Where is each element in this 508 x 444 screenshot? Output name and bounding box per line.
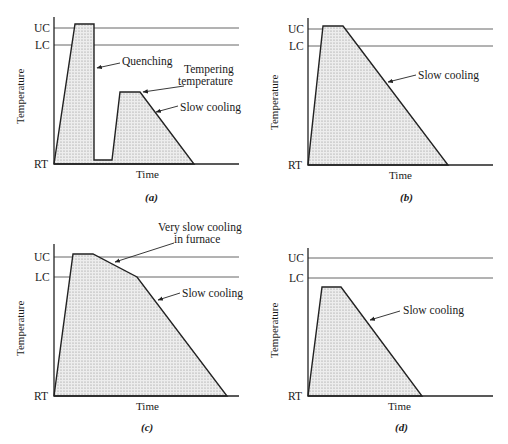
annotation-slow-cooling: Slow cooling bbox=[182, 287, 243, 300]
lc-label: LC bbox=[35, 39, 50, 51]
annotation-temperature: temperature bbox=[178, 75, 233, 88]
panel-d: UC LC RT Temperature Time Slow cooling (… bbox=[268, 248, 493, 434]
x-axis-label: Time bbox=[136, 400, 159, 412]
y-axis-label: Temperature bbox=[14, 68, 26, 124]
x-axis-label: Time bbox=[136, 168, 159, 180]
slow-cooling-arrow-icon bbox=[388, 75, 416, 82]
rt-label: RT bbox=[34, 158, 48, 170]
x-axis-label: Time bbox=[388, 400, 411, 412]
slow-cooling-arrow-icon bbox=[158, 293, 180, 300]
heat-profile-b bbox=[308, 26, 448, 165]
uc-label: UC bbox=[288, 252, 304, 264]
panel-caption: (d) bbox=[395, 421, 408, 434]
lc-label: LC bbox=[35, 271, 50, 283]
annotation-quenching: Quenching bbox=[122, 55, 173, 68]
y-axis-label: Temperature bbox=[14, 300, 26, 356]
annotation-slow-cooling: Slow cooling bbox=[403, 304, 464, 317]
panel-a: UC LC RT Temperature Time Quenching Temp… bbox=[14, 17, 241, 204]
x-axis-label: Time bbox=[389, 169, 412, 181]
y-axis-label: Temperature bbox=[268, 74, 280, 130]
y-axis-label: Temperature bbox=[268, 302, 280, 358]
panel-caption: (a) bbox=[145, 191, 158, 204]
uc-label: UC bbox=[288, 23, 304, 35]
slow-cooling-arrow-icon bbox=[370, 311, 400, 320]
heat-profile-c bbox=[54, 254, 227, 396]
lc-label: LC bbox=[289, 272, 304, 284]
furnace-cooling-arrow-icon bbox=[115, 243, 174, 262]
panel-caption: (c) bbox=[141, 421, 153, 434]
panel-b: UC LC RT Temperature Time Slow cooling (… bbox=[268, 18, 493, 204]
rt-label: RT bbox=[288, 159, 302, 171]
rt-label: RT bbox=[288, 390, 302, 402]
uc-label: UC bbox=[34, 251, 50, 263]
uc-label: UC bbox=[34, 22, 50, 34]
panel-c: UC LC RT Temperature Time Very slow cool… bbox=[14, 221, 243, 434]
annotation-slow-cooling: Slow cooling bbox=[418, 69, 479, 82]
lc-label: LC bbox=[289, 40, 304, 52]
rt-label: RT bbox=[34, 390, 48, 402]
panel-caption: (b) bbox=[400, 191, 413, 204]
slow-cooling-arrow-icon bbox=[156, 106, 178, 112]
annotation-in-furnace: in furnace bbox=[174, 233, 220, 245]
heat-treatment-diagram: UC LC RT Temperature Time Quenching Temp… bbox=[0, 0, 508, 444]
annotation-slow-cooling: Slow cooling bbox=[180, 101, 241, 114]
quenching-arrow-icon bbox=[97, 63, 120, 68]
